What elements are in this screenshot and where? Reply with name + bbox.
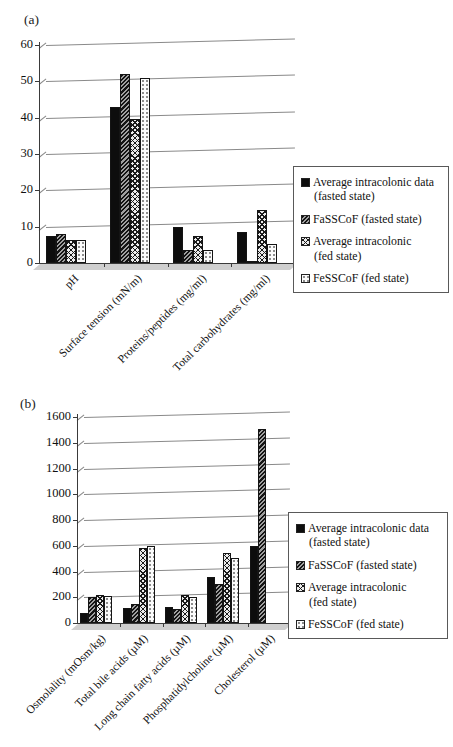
legend-marker-fesscof-icon [296, 620, 305, 629]
bar [183, 250, 193, 263]
panel-b: (b) 02004006008001000120014001600Osmolal… [0, 390, 453, 747]
legend-label: Average intracolonic [313, 234, 411, 248]
bar [223, 553, 231, 623]
legend-marker-fesscof-icon [301, 274, 310, 283]
legend-label: FeSSCoF (fed state) [313, 271, 409, 285]
bar [66, 240, 76, 263]
chart-floor [71, 624, 292, 630]
category-tick [248, 623, 249, 627]
y-tick-label: 0 [27, 255, 33, 270]
legend-marker-avg-intracolonic-fed-icon [296, 583, 305, 592]
gridline [46, 147, 295, 155]
bar [215, 584, 223, 623]
legend-marker-fasscof-icon [301, 215, 310, 224]
bar [189, 597, 197, 623]
panel-a-tag: (a) [24, 12, 39, 28]
category-tick [104, 263, 105, 267]
bar [203, 250, 213, 263]
y-tick-label: 30 [21, 146, 34, 161]
y-tick-label: 40 [21, 110, 34, 125]
category-label: Osmolality (mOsm/kg) [24, 632, 108, 716]
legend-entry: FaSSCoF (fasted state) [301, 212, 442, 226]
legend-entry: Average intracolonic data (fasted state) [301, 175, 442, 204]
chart-floor [33, 264, 297, 270]
bar [139, 548, 147, 623]
bar [231, 558, 239, 623]
bar [258, 429, 266, 623]
bar [147, 546, 155, 623]
y-tick-label: 1200 [46, 461, 71, 476]
legend-marker-avg-intracolonic-fed-icon [301, 237, 310, 246]
y-tick-label: 1400 [46, 435, 71, 450]
bar [247, 261, 257, 263]
y-tick-label: 60 [21, 37, 34, 52]
panel-b-tag: (b) [20, 396, 36, 412]
legend-marker-fasscof-icon [296, 561, 305, 570]
bar [80, 613, 88, 623]
y-tick-label: 600 [52, 538, 71, 553]
x-axis [77, 623, 291, 624]
legend-label-line2: (fed state) [309, 595, 441, 609]
legend-entry: Average intracolonic data (fasted state) [296, 521, 441, 550]
y-axis [39, 42, 40, 264]
figure-page: { "panels": [ { "tag": "(a)" }, { "tag":… [0, 0, 453, 747]
legend-label: FaSSCoF (fasted state) [308, 558, 417, 572]
bar [207, 577, 215, 623]
y-tick-label: 1600 [46, 409, 71, 424]
bar [193, 236, 203, 263]
bar [56, 234, 66, 263]
bar [173, 227, 183, 263]
legend-label: Average intracolonic data [308, 521, 429, 535]
legend-label-line2: (fasted state) [314, 189, 442, 203]
bar [257, 210, 267, 263]
bar [130, 119, 140, 263]
gridline [84, 412, 290, 418]
y-tick-label: 200 [52, 589, 71, 604]
y-tick-label: 50 [21, 73, 34, 88]
panel-a: (a) 0102030405060pHSurface tension (mN/m… [0, 0, 453, 390]
y-tick-label: 0 [65, 615, 71, 630]
legend-label: Average intracolonic [308, 580, 406, 594]
category-tick [205, 623, 206, 627]
legend-entry: Average intracolonic (fed state) [296, 580, 441, 609]
category-label: pH [62, 272, 80, 290]
y-tick-label: 10 [21, 219, 34, 234]
bar [123, 608, 131, 623]
bar [140, 78, 150, 263]
legend-entry: FaSSCoF (fasted state) [296, 558, 441, 572]
gridline [46, 75, 295, 83]
legend-label: FaSSCoF (fasted state) [313, 212, 422, 226]
bar [181, 595, 189, 623]
category-tick [120, 623, 121, 627]
legend-entry: Average intracolonic (fed state) [301, 234, 442, 263]
bar [131, 604, 139, 623]
legend-label-line2: (fasted state) [309, 535, 441, 549]
legend-label: Average intracolonic data [313, 175, 434, 189]
bar [88, 597, 96, 623]
bar [237, 232, 247, 263]
y-tick-label: 400 [52, 564, 71, 579]
y-tick-label: 800 [52, 512, 71, 527]
legend-marker-avg-intracolonic-fasted-icon [296, 524, 305, 533]
y-tick-label: 1000 [46, 486, 71, 501]
legend-a: Average intracolonic data (fasted state)… [293, 166, 449, 293]
gridline [46, 111, 295, 119]
category-tick [231, 263, 232, 267]
bar [120, 74, 130, 263]
legend-b: Average intracolonic data (fasted state)… [288, 512, 448, 639]
legend-entry: FeSSCoF (fed state) [301, 271, 442, 285]
category-tick [168, 263, 169, 267]
category-label: Total bile acids (µM) [73, 632, 150, 709]
bar [46, 236, 56, 263]
bar [267, 244, 277, 263]
gridline [46, 184, 295, 192]
legend-label-line2: (fed state) [314, 249, 442, 263]
y-axis [77, 414, 78, 624]
gridline [46, 38, 295, 46]
category-tick [163, 623, 164, 627]
legend-marker-avg-intracolonic-fasted-icon [301, 178, 310, 187]
bar [104, 596, 112, 623]
bar [165, 607, 173, 623]
y-tick-label: 20 [21, 182, 34, 197]
bar [173, 609, 181, 623]
